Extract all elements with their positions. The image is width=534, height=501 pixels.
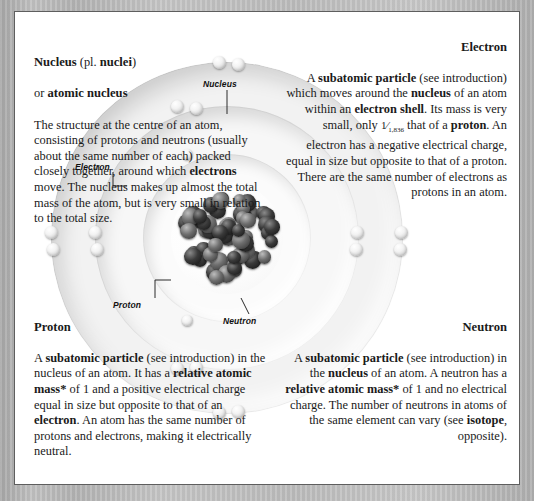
bold-term: subatomic particle [45,351,143,365]
bold-term: relative atomic mass* [34,366,252,396]
entry-neutron-body: A subatomic particle (see introduction) … [277,351,507,445]
neutron-particle [187,246,200,259]
proton-particle [203,247,218,262]
electron-particle [395,226,408,239]
neutron-particle [193,253,207,267]
card-inner: Electron Nucleus Proton Neutron Nucleus … [15,12,519,484]
entry-nucleus-heading: Nucleus (pl. nuclei) or atomic nucleus [34,40,266,102]
bold-term: relative atomic mass* [285,382,399,396]
neutron-particle [184,248,202,266]
electron-particle [91,243,104,256]
neutron-particle [227,261,242,276]
entry-neutron-heading: Neutron [277,320,507,336]
proton-particle [225,261,242,278]
entry-nucleus: Nucleus (pl. nuclei) or atomic nucleus T… [34,24,266,242]
proton-particle [230,249,246,265]
electron-particle [351,226,364,239]
encyclopedia-card: Electron Nucleus Proton Neutron Nucleus … [14,11,520,485]
entry-nucleus-plural: nuclei [100,55,132,69]
bold-term: subatomic particle [318,71,416,85]
entry-electron: Electron A subatomic particle (see intro… [285,24,507,216]
entry-nucleus-paren-close: ) [132,55,136,69]
entry-nucleus-term: Nucleus [34,55,77,69]
bold-term: electron shell [354,102,424,116]
bold-term: nucleus [328,366,368,380]
neutron-particle [227,251,240,264]
bold-term: subatomic particle [305,351,403,365]
bold-term: isotope [467,413,504,427]
bold-term: electron [34,413,76,427]
electron-particle [394,243,407,256]
entry-electron-heading: Electron [285,40,507,56]
neutron-particle [244,251,262,269]
neutron-particle [264,219,280,235]
proton-particle [210,252,228,270]
neutron-particle [248,251,263,266]
proton-particle [238,242,255,259]
proton-particle [218,265,235,282]
mass-ratio-fraction: 1⁄1,836 [381,119,404,131]
neutron-particle [196,242,210,256]
entry-proton-body: A subatomic particle (see introduction) … [34,351,266,460]
entry-nucleus-or: or [34,86,47,100]
entry-proton-heading: Proton [34,320,266,336]
entry-proton: Proton A subatomic particle (see introdu… [34,304,266,476]
entry-neutron: Neutron A subatomic particle (see introd… [277,304,507,460]
bold-term: electrons [189,164,236,178]
proton-particle [209,270,224,285]
neutron-particle [206,263,223,280]
entry-electron-body: A subatomic particle (see introduction) … [285,71,507,201]
electron-particle [350,243,363,256]
proton-particle [233,247,248,262]
electron-particle [47,243,60,256]
entry-nucleus-paren-open: (pl. [77,55,100,69]
proton-particle [258,250,272,264]
bold-term: nucleus [411,86,451,100]
entry-nucleus-body: The structure at the centre of an atom, … [34,118,266,227]
bold-term: proton [451,118,487,132]
entry-nucleus-alt-term: atomic nucleus [47,86,127,100]
neutron-particle [265,235,278,248]
